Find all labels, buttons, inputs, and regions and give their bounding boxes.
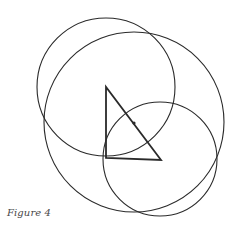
circles-group	[37, 18, 224, 216]
hypotenuse-midpoint-dot	[132, 121, 135, 124]
geometry-figure	[0, 0, 233, 237]
figure-caption: Figure 4	[7, 207, 51, 218]
